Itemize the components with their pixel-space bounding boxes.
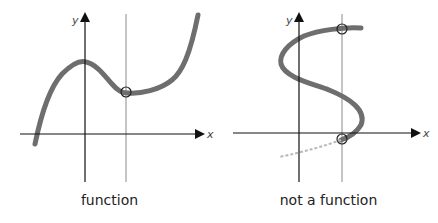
y-axis-label: y [71, 14, 79, 27]
not-function-panel: y x not a function [219, 0, 438, 223]
not-function-graph: y x [219, 0, 438, 223]
x-axis-arrow-icon [411, 128, 421, 138]
relation-curve-tail [279, 140, 341, 157]
function-graph: y x [0, 0, 219, 223]
x-axis-arrow-icon [195, 129, 205, 139]
caption-not-function: not a function [219, 192, 438, 208]
y-axis-arrow-icon [294, 12, 304, 22]
function-panel: y x function [0, 0, 219, 223]
function-curve [35, 15, 198, 144]
y-axis-label: y [285, 14, 293, 27]
caption-function: function [0, 192, 219, 208]
x-axis-label: x [422, 127, 430, 140]
relation-curve [281, 28, 362, 140]
x-axis-label: x [206, 128, 214, 141]
y-axis-arrow-icon [80, 12, 90, 22]
